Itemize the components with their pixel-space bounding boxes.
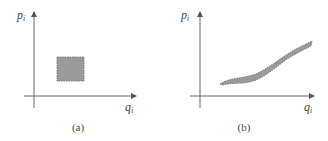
x-axis-label: qi <box>304 100 312 115</box>
y-axis-label: pi <box>180 8 189 23</box>
phase-space-figure: pi qi (a) pi qi (b) <box>0 0 328 141</box>
phase-region-band <box>220 41 312 85</box>
x-axis-label: qi <box>125 100 133 115</box>
panel-a: pi qi (a) <box>16 8 136 134</box>
panel-b: pi qi (b) <box>180 8 314 134</box>
caption-a: (a) <box>72 121 85 134</box>
phase-region-rectangle <box>57 57 84 81</box>
y-axis-label: pi <box>16 8 25 23</box>
caption-b: (b) <box>238 121 251 134</box>
